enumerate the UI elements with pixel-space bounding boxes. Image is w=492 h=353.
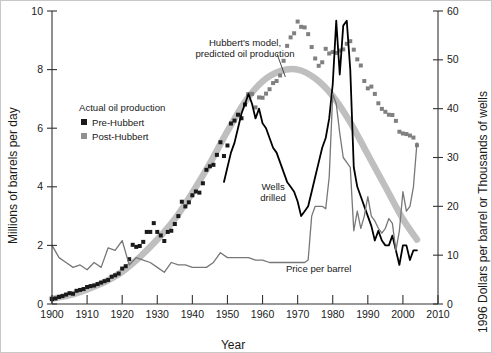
data-marker (313, 56, 317, 60)
data-marker (404, 132, 408, 136)
data-marker (215, 153, 219, 157)
data-marker (208, 164, 212, 168)
data-marker (327, 51, 331, 55)
x-axis-tick-label: 1940 (181, 308, 205, 320)
data-marker (306, 32, 310, 36)
data-marker (275, 79, 279, 83)
data-marker (303, 25, 307, 29)
y-axis-title: Millions of barrels per day (6, 107, 20, 244)
data-marker (113, 273, 117, 277)
data-marker (296, 20, 300, 24)
data-marker (75, 289, 79, 293)
data-marker (166, 230, 170, 234)
data-marker (124, 264, 128, 268)
x-axis-tick-label: 2010 (426, 308, 450, 320)
y2-axis-title: 1996 Dollars per barrel or Thousands of … (476, 91, 490, 333)
data-marker (211, 163, 215, 167)
data-marker (383, 110, 387, 114)
data-marker (394, 119, 398, 123)
x-axis-title: Year (221, 338, 245, 352)
legend-label-pre-hubbert: Pre-Hubbert (92, 117, 145, 128)
data-marker (71, 292, 75, 296)
data-marker (169, 229, 173, 233)
data-marker (197, 191, 201, 195)
x-axis-tick-label: 1990 (356, 308, 380, 320)
data-marker (229, 122, 233, 126)
data-marker (92, 284, 96, 288)
data-marker (85, 285, 89, 289)
data-marker (380, 107, 384, 111)
data-marker (57, 295, 61, 299)
data-marker (261, 96, 265, 100)
data-marker (376, 101, 380, 105)
data-marker (373, 92, 377, 96)
y-axis-tick-label: 4 (37, 180, 43, 192)
data-marker (289, 35, 293, 39)
y2-axis-tick-label: 20 (447, 200, 459, 212)
data-marker (134, 245, 138, 249)
data-marker (352, 48, 356, 52)
data-marker (120, 267, 124, 271)
x-axis-tick-label: 1920 (111, 308, 135, 320)
data-marker (387, 113, 391, 117)
y2-axis-tick-label: 60 (447, 5, 459, 17)
data-marker (187, 200, 191, 204)
data-marker (96, 282, 100, 286)
data-marker (232, 119, 236, 123)
data-marker (257, 95, 261, 99)
data-marker (173, 222, 177, 226)
x-axis-tick-label: 1910 (75, 308, 99, 320)
data-marker (369, 85, 373, 89)
data-marker (324, 47, 328, 51)
legend-marker-pre-hubbert (81, 119, 87, 125)
data-marker (110, 275, 114, 279)
chart-figure: 0246810010203040506019001910192019301940… (0, 0, 492, 353)
data-marker (201, 181, 205, 185)
data-marker (162, 239, 166, 243)
chart-legend: Actual oil production Pre-Hubbert Post-H… (79, 102, 165, 142)
data-marker (250, 92, 254, 96)
x-axis-tick-label: 1980 (321, 308, 345, 320)
data-marker (390, 113, 394, 117)
data-marker (362, 79, 366, 83)
data-marker (264, 92, 268, 96)
data-marker (183, 204, 187, 208)
data-marker (310, 45, 314, 49)
series-pre_hubbert (50, 93, 251, 302)
data-marker (268, 87, 272, 91)
data-marker (204, 168, 208, 172)
data-marker (159, 233, 163, 237)
data-marker (141, 240, 145, 244)
legend-header: Actual oil production (79, 102, 165, 113)
y2-axis-tick-label: 30 (447, 151, 459, 163)
data-marker (152, 221, 156, 225)
data-marker (282, 59, 286, 63)
x-axis-tick-label: 1970 (286, 308, 310, 320)
data-marker (408, 134, 412, 138)
y-axis-tick-label: 2 (37, 239, 43, 251)
wells-drilled-annotation: Wellsdrilled (260, 181, 286, 203)
data-marker (271, 81, 275, 85)
data-series-layer (50, 20, 419, 301)
wells-drilled-annotation-line2: drilled (260, 192, 286, 203)
data-marker (236, 113, 240, 117)
data-marker (278, 73, 282, 77)
data-marker (397, 130, 401, 134)
data-marker (401, 131, 405, 135)
y2-axis-tick-label: 40 (447, 102, 459, 114)
x-axis-tick-label: 1950 (216, 308, 240, 320)
data-marker (103, 279, 107, 283)
data-marker (218, 140, 222, 144)
x-axis-tick-label: 1900 (40, 308, 64, 320)
x-axis-tick-label: 1930 (146, 308, 170, 320)
y2-axis-tick-label: 10 (447, 249, 459, 261)
data-marker (320, 60, 324, 64)
data-marker (99, 281, 103, 285)
data-marker (145, 230, 149, 234)
data-marker (117, 272, 121, 276)
wells-drilled-annotation-line1: Wells (261, 181, 284, 192)
data-marker (148, 230, 152, 234)
data-marker (292, 31, 296, 35)
data-marker (359, 64, 363, 68)
data-marker (176, 214, 180, 218)
